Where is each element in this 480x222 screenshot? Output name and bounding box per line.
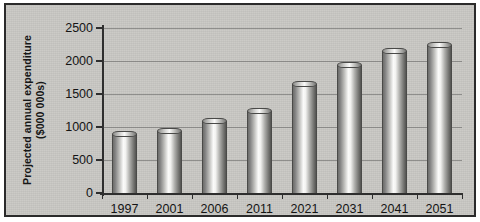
- gridline: [102, 61, 462, 62]
- y-axis-tick-label: 500: [72, 153, 93, 167]
- bar: [247, 111, 272, 193]
- x-axis-tick-label: 2001: [156, 202, 184, 216]
- y-axis-title-line-1: Projected annual expenditure: [21, 35, 33, 185]
- bar: [427, 45, 452, 193]
- x-axis-tick-label: 1997: [111, 202, 139, 216]
- x-axis-tick-mark: [102, 193, 103, 199]
- plot-area: 0500100015002000250019972001200620112021…: [102, 28, 462, 193]
- x-axis-tick-mark: [147, 193, 148, 199]
- bar-top-ellipse: [157, 128, 182, 134]
- bar: [382, 51, 407, 193]
- bar: [112, 134, 137, 193]
- bar-top-ellipse: [382, 48, 407, 54]
- gridline: [102, 94, 462, 95]
- x-axis-tick-mark: [327, 193, 328, 199]
- y-axis-tick-label: 1500: [65, 87, 93, 101]
- bar-top-ellipse: [337, 62, 362, 68]
- x-axis-tick-mark: [417, 193, 418, 199]
- x-axis-tick-mark: [462, 193, 463, 199]
- y-axis-tick-label: 2500: [65, 21, 93, 35]
- x-axis-tick-mark: [192, 193, 193, 199]
- y-axis-title-line-2: ($000 000s): [33, 17, 46, 203]
- gridline: [102, 160, 462, 161]
- x-axis-tick-mark: [282, 193, 283, 199]
- y-axis-tick-label: 2000: [65, 54, 93, 68]
- bar-top-ellipse: [202, 118, 227, 124]
- bar: [157, 131, 182, 193]
- x-axis-tick-label: 2041: [381, 202, 409, 216]
- bar: [292, 84, 317, 193]
- x-axis-tick-mark: [372, 193, 373, 199]
- gridline: [102, 127, 462, 128]
- y-axis-tick-label: 0: [86, 186, 93, 200]
- x-axis-tick-mark: [237, 193, 238, 199]
- x-axis-tick-label: 2031: [336, 202, 364, 216]
- y-axis-tick-mark: [96, 126, 103, 128]
- x-axis-tick-label: 2021: [291, 202, 319, 216]
- x-axis-tick-label: 2006: [201, 202, 229, 216]
- y-axis-title: Projected annual expenditure ($000 000s): [16, 15, 50, 205]
- bar-top-ellipse: [247, 108, 272, 114]
- y-axis-tick-mark: [96, 27, 103, 29]
- bar: [202, 121, 227, 193]
- y-axis-tick-mark: [96, 60, 103, 62]
- gridline: [102, 28, 462, 29]
- bar-top-ellipse: [292, 81, 317, 87]
- y-axis-tick-mark: [96, 159, 103, 161]
- bar-top-ellipse: [427, 42, 452, 48]
- bar: [337, 65, 362, 193]
- bar-top-ellipse: [112, 131, 137, 137]
- chart-screenshot: Projected annual expenditure ($000 000s)…: [0, 0, 480, 222]
- y-axis-line: [102, 25, 104, 196]
- y-axis-tick-mark: [96, 93, 103, 95]
- x-axis-tick-label: 2051: [426, 202, 454, 216]
- x-axis-tick-label: 2011: [246, 202, 273, 216]
- chart-figure-frame: Projected annual expenditure ($000 000s)…: [4, 3, 476, 217]
- y-axis-tick-label: 1000: [65, 120, 93, 134]
